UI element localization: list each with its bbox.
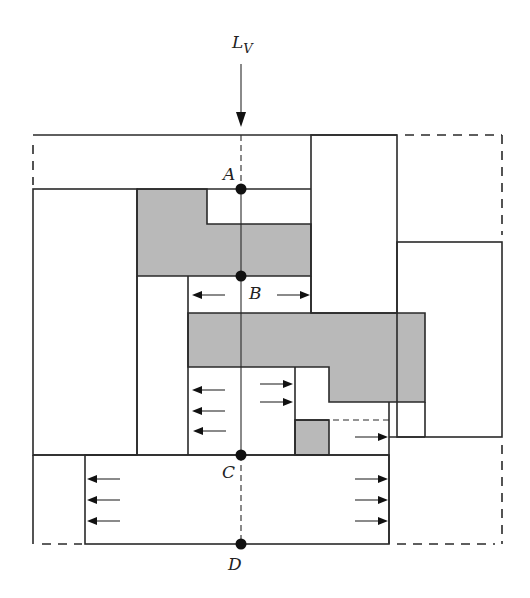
tall-column: [311, 135, 397, 313]
arrow-left-icon: [192, 407, 225, 415]
left-block: [33, 189, 137, 455]
arrow-left-icon: [87, 475, 120, 483]
point-B: [236, 271, 247, 282]
label-A: A: [221, 164, 235, 184]
bottom-block: [85, 455, 389, 544]
shaded-region-middle: [188, 313, 425, 402]
shaded-region-upper: [137, 189, 311, 276]
arrow-right-icon: [277, 291, 310, 299]
arrow-left-icon: [87, 517, 120, 525]
arrow-left-icon: [193, 427, 226, 435]
arrow-left-icon: [87, 496, 120, 504]
arrow-right-icon: [355, 433, 388, 441]
point-D: [236, 539, 247, 550]
label-C: C: [222, 462, 235, 482]
label-B: B: [248, 283, 262, 303]
arrow-right-icon: [355, 517, 388, 525]
load-label: LV: [231, 32, 254, 56]
arrow-right-icon: [260, 398, 293, 406]
point-C: [236, 450, 247, 461]
load-arrow-icon: [236, 64, 246, 127]
label-D: D: [227, 554, 242, 574]
layered-load-path-diagram: LV A B C D: [0, 0, 530, 598]
arrow-left-icon: [192, 291, 225, 299]
arrow-right-icon: [355, 496, 388, 504]
shaded-region-small: [295, 420, 329, 455]
arrow-right-icon: [260, 380, 293, 388]
arrow-right-icon: [355, 475, 388, 483]
arrow-left-icon: [192, 386, 225, 394]
point-A: [236, 184, 247, 195]
svg-text:LV: LV: [231, 32, 254, 56]
